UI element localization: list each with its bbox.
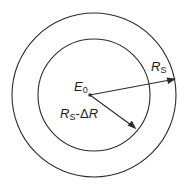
inner-radius-label: RS-ΔR	[60, 107, 98, 122]
outer-radius-variable: R	[151, 59, 161, 74]
figure-container: E0 RS RS-ΔR	[0, 0, 192, 190]
concentric-circles-diagram	[0, 0, 192, 190]
delta-symbol: Δ	[80, 106, 89, 121]
center-energy-label: E0	[74, 80, 88, 95]
outer-radius-label: RS	[151, 60, 167, 75]
outer-radius-arrow-line	[90, 80, 170, 95]
outer-circle	[12, 13, 176, 177]
inner-radius-arrow-head	[128, 121, 137, 129]
origin-point	[88, 93, 91, 96]
center-energy-variable: E	[74, 79, 83, 94]
inner-radius-variable-2: R	[89, 106, 99, 121]
inner-radius-variable-1: R	[60, 106, 70, 121]
center-energy-subscript: 0	[83, 85, 88, 95]
inner-circle	[38, 39, 150, 151]
outer-radius-subscript: S	[161, 65, 167, 75]
